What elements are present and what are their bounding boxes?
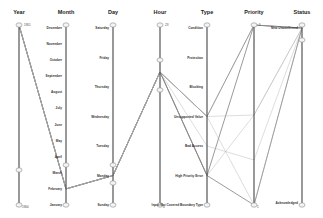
tick-label: February — [48, 187, 62, 191]
axis-title-day[interactable]: Day — [108, 9, 119, 15]
axis-priority: Priority51 — [244, 9, 264, 209]
brush-handle[interactable] — [16, 168, 22, 172]
tick-label: High Priority Error — [175, 174, 204, 178]
parallel-coordinates-chart: Year19511900MonthDecemberNovemberOctober… — [0, 0, 323, 218]
axis-title-year[interactable]: Year — [13, 9, 25, 15]
brush-handle[interactable] — [251, 203, 257, 207]
tick-label: March — [53, 171, 62, 175]
axis-hour: Hour230 — [154, 9, 169, 209]
tick-label: November — [46, 42, 62, 46]
brush-handle[interactable] — [63, 23, 69, 27]
axis-status: StatusNew UnconfirmedAcknowledged — [271, 9, 311, 207]
range-top-label: 1951 — [24, 23, 31, 27]
brush-handle[interactable] — [110, 163, 116, 167]
range-top-label: 23 — [165, 23, 169, 27]
tick-label: Input Not Covered Boundary Type — [152, 203, 204, 207]
brush-handle[interactable] — [157, 23, 163, 27]
range-bottom-label: 1900 — [22, 205, 29, 209]
brush-handle[interactable] — [251, 23, 257, 27]
axis-title-month[interactable]: Month — [58, 9, 75, 15]
tick-label: Wednesday — [91, 115, 109, 119]
tick-label: Monday — [97, 174, 109, 178]
brush-handle[interactable] — [110, 203, 116, 207]
tick-label: New Unconfirmed — [271, 26, 298, 30]
tick-label: September — [46, 74, 63, 78]
tick-label: May — [56, 139, 62, 143]
range-bottom-label: 1 — [257, 205, 259, 209]
brush-handle[interactable] — [63, 203, 69, 207]
axis-title-priority[interactable]: Priority — [244, 9, 264, 15]
tick-label: Saturday — [95, 26, 109, 30]
tick-label: January — [50, 203, 62, 207]
tick-label: Tuesday — [96, 144, 109, 148]
brush-handle[interactable] — [63, 163, 69, 167]
axis-title-status[interactable]: Status — [294, 9, 311, 15]
brush-handle[interactable] — [110, 181, 116, 185]
tick-label: Thursday — [95, 85, 110, 89]
brush-handle[interactable] — [16, 203, 22, 207]
range-top-label: 5 — [259, 23, 261, 27]
tick-label: Condition — [188, 26, 203, 30]
tick-label: Friday — [99, 56, 109, 60]
tick-label: October — [50, 58, 63, 62]
brush-handle[interactable] — [299, 23, 305, 27]
brush-handle[interactable] — [299, 38, 305, 42]
tick-label: June — [55, 123, 63, 127]
brush-handle[interactable] — [204, 203, 210, 207]
axis-title-hour[interactable]: Hour — [154, 9, 168, 15]
brush-handle[interactable] — [157, 58, 163, 62]
axis-month: MonthDecemberNovemberOctoberSeptemberAug… — [46, 9, 75, 207]
tick-label: August — [51, 90, 63, 94]
axis-day: DaySaturdayFridayThursdayWednesdayTuesda… — [91, 9, 119, 207]
brush-handle[interactable] — [16, 23, 22, 27]
brush-handle[interactable] — [299, 203, 305, 207]
tick-label: Blocking — [190, 85, 204, 89]
tick-label: Protection — [187, 56, 203, 60]
axis-type: TypeConditionProtectionBlockingUnsupport… — [152, 9, 214, 207]
brush-handle[interactable] — [204, 23, 210, 27]
brush-handle[interactable] — [157, 88, 163, 92]
tick-label: July — [56, 106, 63, 110]
brush-handle[interactable] — [110, 23, 116, 27]
tick-label: Acknowledged — [276, 201, 299, 205]
tick-label: Sunday — [97, 203, 109, 207]
tick-label: Bad Access — [185, 144, 203, 148]
axis-title-type[interactable]: Type — [201, 9, 213, 15]
tick-label: December — [47, 26, 63, 30]
axes-layer: Year19511900MonthDecemberNovemberOctober… — [13, 9, 310, 209]
tick-label: April — [55, 155, 62, 159]
tick-label: Unsupported Value — [174, 115, 203, 119]
axis-year: Year19511900 — [13, 9, 31, 209]
